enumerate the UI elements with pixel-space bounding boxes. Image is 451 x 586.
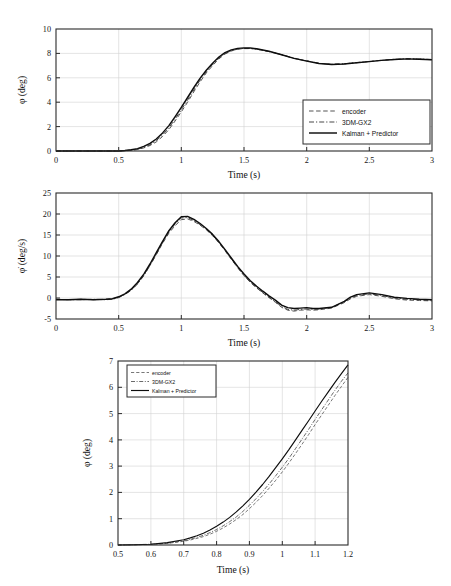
- panel1-xtick-2: 1: [179, 156, 183, 165]
- panel3-ytick-5: 5: [109, 410, 113, 419]
- panel1-ytick-1: 2: [47, 123, 51, 132]
- chart-panel-2: 0 0.5 1 1.5 2 2.5 3 -5 0 5 10 15 20 25: [0, 182, 451, 350]
- panel1-xtick-4: 2: [305, 156, 309, 165]
- panel1-ytick-4: 8: [47, 49, 51, 58]
- panel2-xtick-3: 1.5: [239, 324, 249, 333]
- panel1-xtick-labels: 0 0.5 1 1.5 2 2.5 3: [54, 156, 434, 165]
- panel1-xtick-5: 2.5: [364, 156, 374, 165]
- panel2-ytick-labels: -5 0 5 10 15 20 25: [43, 189, 51, 324]
- panel3-legend-label-gx2: 3DM-GX2: [152, 379, 175, 385]
- panel1-xtick-1: 0.5: [114, 156, 124, 165]
- figure-container: 0 0.5 1 1.5 2 2.5 3 0 2 4 6 8 10 Time (s…: [0, 0, 451, 586]
- panel2-xtick-4: 2: [305, 324, 309, 333]
- panel3-xtick-5: 1: [280, 550, 284, 559]
- panel3-ytick-4: 4: [109, 436, 113, 445]
- panel2-xtick-1: 0.5: [114, 324, 124, 333]
- panel3-xtick-3: 0.8: [211, 550, 221, 559]
- panel3-ytick-3: 3: [109, 462, 113, 471]
- panel2-xtick-2: 1: [179, 324, 183, 333]
- panel2-xtick-5: 2.5: [364, 324, 374, 333]
- panel3-xtick-labels: 0.5 0.6 0.7 0.8 0.9 1 1.1 1.2: [113, 550, 353, 559]
- panel2-ytick-5: 20: [43, 210, 51, 219]
- panel3-ytick-1: 1: [109, 515, 113, 524]
- panel3-ytick-6: 6: [109, 383, 113, 392]
- panel2-ytick-0: -5: [44, 315, 51, 324]
- panel2-ytick-3: 10: [43, 252, 51, 261]
- panel2-ytick-1: 0: [47, 294, 51, 303]
- panel3-xtick-2: 0.7: [179, 550, 189, 559]
- panel1-xtick-6: 3: [430, 156, 434, 165]
- panel3-ytick-0: 0: [109, 541, 113, 550]
- panel1-xtick-0: 0: [54, 156, 58, 165]
- panel2-xtick-0: 0: [54, 324, 58, 333]
- panel2-plot-area: 0 0.5 1 1.5 2 2.5 3 -5 0 5 10 15 20 25: [16, 189, 434, 349]
- panel1-legend-label-gx2: 3DM-GX2: [342, 119, 372, 126]
- panel1-ytick-labels: 0 2 4 6 8 10: [43, 25, 51, 156]
- panel2-xaxis-label: Time (s): [228, 337, 260, 349]
- panel1-legend-label-encoder: encoder: [342, 108, 367, 115]
- panel3-plot-area: 0.5 0.6 0.7 0.8 0.9 1 1.1 1.2 0 1 2 3 4 …: [81, 357, 353, 576]
- panel3-xtick-4: 0.9: [244, 550, 254, 559]
- panel2-xtick-labels: 0 0.5 1 1.5 2 2.5 3: [54, 324, 434, 333]
- panel3-legend-label-encoder: encoder: [152, 370, 171, 376]
- chart-panel-1: 0 0.5 1 1.5 2 2.5 3 0 2 4 6 8 10 Time (s…: [0, 0, 451, 182]
- panel1-ytick-0: 0: [47, 147, 51, 156]
- panel1-xaxis-label: Time (s): [228, 169, 260, 181]
- panel3-yaxis-label: φ (deg): [81, 439, 93, 467]
- panel3-xtick-6: 1.1: [310, 550, 320, 559]
- panel1-legend: encoder 3DM-GX2 Kalman + Predictor: [303, 100, 430, 144]
- panel1-ytick-3: 6: [47, 74, 51, 83]
- panel1-yaxis-label: φ (deg): [16, 76, 28, 104]
- panel3-xaxis-label: Time (s): [217, 564, 249, 576]
- panel1-legend-label-kalman: Kalman + Predictor: [342, 130, 399, 137]
- panel2-xtick-6: 3: [430, 324, 434, 333]
- panel3-ytick-7: 7: [109, 357, 113, 366]
- panel3-ytick-labels: 0 1 2 3 4 5 6 7: [109, 357, 113, 550]
- panel3-legend: encoder 3DM-GX2 Kalman + Predictor: [127, 365, 216, 397]
- panel3-xtick-7: 1.2: [343, 550, 353, 559]
- panel1-ytick-5: 10: [43, 25, 51, 34]
- panel3-xtick-1: 0.6: [146, 550, 156, 559]
- panel2-ytick-6: 25: [43, 189, 51, 198]
- panel1-xtick-3: 1.5: [239, 156, 249, 165]
- panel3-xtick-0: 0.5: [113, 550, 123, 559]
- panel2-yaxis-label: φ̇ (deg/s): [16, 239, 28, 274]
- panel1-ytick-2: 4: [47, 98, 51, 107]
- panel3-ytick-2: 2: [109, 488, 113, 497]
- panel2-ytick-2: 5: [47, 273, 51, 282]
- panel1-plot-area: 0 0.5 1 1.5 2 2.5 3 0 2 4 6 8 10 Time (s…: [16, 25, 434, 181]
- chart-panel-3: 0.5 0.6 0.7 0.8 0.9 1 1.1 1.2 0 1 2 3 4 …: [0, 350, 451, 586]
- panel3-legend-label-kalman: Kalman + Predictor: [152, 388, 197, 394]
- panel2-ytick-4: 15: [43, 231, 51, 240]
